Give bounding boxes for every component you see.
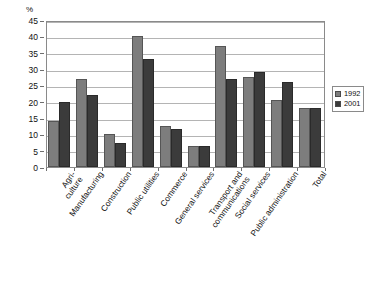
bar-chart: % 051015202530354045 Agri-cultureManufac… (0, 0, 377, 287)
bar-group (159, 22, 187, 167)
bar-group (131, 22, 159, 167)
bar-1992 (160, 126, 171, 167)
y-axis-tick-label: 5 (33, 147, 38, 156)
y-axis-tick-labels: 051015202530354045 (0, 21, 44, 168)
bar-group (270, 22, 298, 167)
legend-label: 1992 (344, 90, 360, 98)
bar-1992 (299, 108, 310, 167)
bar-2001 (143, 59, 154, 167)
y-axis-tick-label: 15 (29, 115, 38, 124)
bar-group (214, 22, 242, 167)
bar-1992 (188, 146, 199, 167)
legend-swatch-icon (335, 91, 341, 97)
y-axis-tick-mark (40, 86, 44, 87)
y-axis-tick-label: 40 (29, 33, 38, 42)
bar-1992 (76, 79, 87, 167)
bar-2001 (226, 79, 237, 167)
y-axis-tick-label: 10 (29, 131, 38, 140)
bar-2001 (87, 95, 98, 167)
bar-2001 (282, 82, 293, 167)
bar-group (47, 22, 75, 167)
bar-1992 (243, 77, 254, 167)
bar-1992 (271, 100, 282, 167)
y-axis-tick-label: 20 (29, 98, 38, 107)
bar-group (187, 22, 215, 167)
bar-group (242, 22, 270, 167)
y-axis-tick-mark (40, 119, 44, 120)
x-axis-category-label: Total (311, 170, 329, 190)
y-axis-tick-label: 25 (29, 82, 38, 91)
legend-label: 2001 (344, 100, 360, 108)
y-axis-tick-mark (40, 168, 44, 169)
bar-2001 (310, 108, 321, 167)
y-axis-tick-label: 35 (29, 49, 38, 58)
y-axis-tick-mark (40, 53, 44, 54)
bar-1992 (132, 36, 143, 167)
bars-layer (47, 22, 324, 167)
bar-2001 (199, 146, 210, 167)
bar-group (75, 22, 103, 167)
bar-group (298, 22, 326, 167)
bar-2001 (171, 129, 182, 167)
y-axis-tick-mark (40, 21, 44, 22)
y-axis-tick-label: 45 (29, 17, 38, 26)
legend-item: 1992 (335, 89, 360, 99)
bar-2001 (115, 143, 126, 168)
y-axis-tick-mark (40, 102, 44, 103)
bar-2001 (59, 102, 70, 167)
bar-1992 (215, 46, 226, 167)
y-axis-tick-mark (40, 70, 44, 71)
bar-group (103, 22, 131, 167)
y-axis-tick-mark (40, 37, 44, 38)
plot-area (46, 21, 325, 168)
x-axis-category-labels: Agri-cultureManufacturingConstructionPub… (0, 170, 377, 287)
bar-1992 (104, 134, 115, 167)
y-axis-tick-mark (40, 135, 44, 136)
y-axis-unit-label: % (26, 5, 33, 14)
legend-item: 2001 (335, 99, 360, 109)
y-axis-tick-mark (40, 151, 44, 152)
legend-swatch-icon (335, 101, 341, 107)
y-axis-tick-label: 30 (29, 66, 38, 75)
legend: 1992 2001 (332, 86, 364, 112)
bar-1992 (48, 121, 59, 167)
bar-2001 (254, 72, 265, 167)
